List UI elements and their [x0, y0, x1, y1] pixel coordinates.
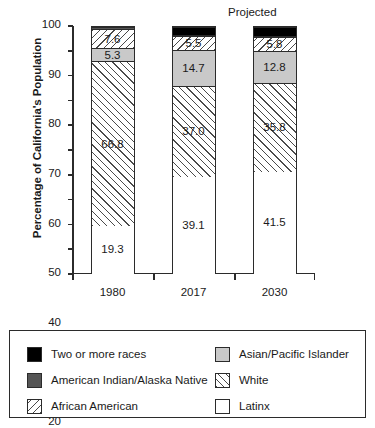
segment-value-label: 7.6	[104, 34, 122, 46]
bar-segment: 19.3	[92, 226, 134, 274]
y-tick-label: 100	[42, 20, 61, 32]
x-tick-label-2017: 2017	[181, 286, 207, 298]
plot-area: 0102030405060708090100 198020172030 19.3…	[72, 26, 315, 274]
y-tick: 10	[68, 248, 73, 250]
bar-segment: 7.6	[92, 29, 134, 48]
x-tick	[153, 274, 155, 280]
segment-value-label: 66.8	[100, 139, 124, 151]
y-tick-label: 90	[48, 69, 61, 81]
bar-1980: 19.366.85.37.6	[91, 26, 135, 274]
y-tick: 70	[68, 100, 73, 102]
bar-segment	[173, 35, 215, 36]
y-tick: 20	[68, 224, 73, 226]
bar-segment: 35.8	[254, 83, 296, 171]
segment-value-label: 41.5	[262, 217, 286, 229]
legend-swatch-icon	[27, 347, 42, 362]
bar-segment: 14.7	[173, 50, 215, 86]
bar-segment: 12.8	[254, 51, 296, 83]
legend-swatch-icon	[215, 399, 230, 414]
legend-item: African American	[27, 395, 208, 418]
y-axis-title: Percentage of California's Population	[31, 13, 43, 263]
legend-label: White	[239, 375, 268, 387]
legend-label: American Indian/Alaska Native	[51, 375, 208, 387]
segment-value-label: 35.8	[262, 122, 286, 134]
y-tick-label: 40	[48, 317, 61, 329]
legend-column-left: Two or more racesAmerican Indian/Alaska …	[27, 343, 208, 421]
bar-segment	[173, 27, 215, 35]
bar-segment: 5.3	[92, 48, 134, 61]
stacked-bar-chart: Percentage of California's Population Pr…	[0, 0, 375, 318]
bar-segment	[92, 27, 134, 29]
segment-value-label: 5.3	[104, 50, 122, 62]
legend-item: Two or more races	[27, 343, 208, 366]
y-tick: 80	[68, 75, 73, 77]
bar-segment: 5.5	[173, 36, 215, 50]
legend-label: African American	[51, 401, 138, 413]
legend-item: White	[215, 369, 349, 392]
y-tick: 60	[68, 124, 73, 126]
y-tick-label: 80	[48, 119, 61, 131]
y-tick-label: 50	[48, 268, 61, 280]
legend-swatch-icon	[27, 399, 42, 414]
y-tick-label: 70	[48, 168, 61, 180]
y-tick: 100	[68, 25, 73, 27]
segment-value-label: 37.0	[181, 126, 205, 138]
x-tick	[72, 274, 74, 280]
y-tick: 30	[68, 199, 73, 201]
chart-legend: Two or more racesAmerican Indian/Alaska …	[9, 330, 366, 418]
bar-2017: 39.137.014.75.5	[172, 26, 216, 274]
legend-label: Asian/Pacific Islander	[239, 349, 349, 361]
bar-segment: 41.5	[254, 172, 296, 275]
legend-column-right: Asian/Pacific IslanderWhiteLatinx	[215, 343, 349, 421]
segment-value-label: 19.3	[100, 244, 124, 256]
y-tick: 40	[68, 174, 73, 176]
segment-value-label: 14.7	[181, 63, 205, 75]
bar-2030: 41.535.812.85.8	[253, 26, 297, 274]
x-tick	[314, 274, 316, 280]
legend-item: Latinx	[215, 395, 349, 418]
legend-item: Asian/Pacific Islander	[215, 343, 349, 366]
x-tick-label-2030: 2030	[262, 286, 288, 298]
y-tick: 50	[68, 149, 73, 151]
legend-label: Latinx	[239, 401, 270, 413]
segment-value-label: 5.8	[266, 39, 284, 51]
legend-label: Two or more races	[51, 349, 146, 361]
x-tick	[234, 274, 236, 280]
bar-segment: 39.1	[173, 177, 215, 274]
projected-annotation: Projected	[228, 6, 277, 18]
legend-swatch-icon	[215, 373, 230, 388]
bar-segment	[254, 36, 296, 37]
bar-segment	[254, 27, 296, 36]
x-tick-label-1980: 1980	[100, 286, 126, 298]
bar-segment: 37.0	[173, 86, 215, 177]
y-tick: 90	[68, 50, 73, 52]
legend-item: American Indian/Alaska Native	[27, 369, 208, 392]
bar-segment: 5.8	[254, 37, 296, 51]
legend-swatch-icon	[215, 347, 230, 362]
y-tick-label: 60	[48, 218, 61, 230]
legend-swatch-icon	[27, 373, 42, 388]
bar-segment: 66.8	[92, 61, 134, 226]
segment-value-label: 5.5	[185, 38, 203, 50]
segment-value-label: 39.1	[181, 220, 205, 232]
segment-value-label: 12.8	[262, 62, 286, 74]
